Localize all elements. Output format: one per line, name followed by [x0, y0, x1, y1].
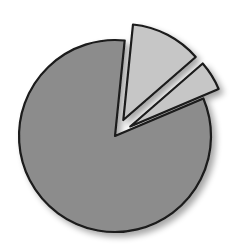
pie-chart: [0, 0, 249, 245]
pie-chart-svg: [0, 0, 249, 245]
pie-slices: [19, 25, 219, 232]
